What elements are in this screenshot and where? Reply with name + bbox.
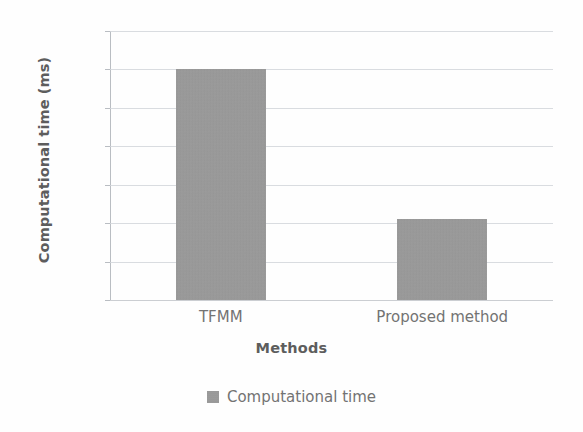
x-category-label: Proposed method	[322, 308, 562, 326]
y-tick-mark	[105, 300, 110, 301]
y-tick-mark	[105, 31, 110, 32]
y-axis-title: Computational time (ms)	[36, 30, 52, 290]
gridline	[110, 31, 553, 32]
plot-area	[110, 31, 553, 300]
y-tick-mark	[105, 69, 110, 70]
bar[interactable]	[397, 219, 487, 300]
x-category-label: TFMM	[101, 308, 341, 326]
legend-label: Computational time	[227, 388, 376, 406]
x-axis-title: Methods	[0, 340, 583, 356]
bar[interactable]	[176, 69, 266, 300]
y-tick-mark	[105, 146, 110, 147]
y-tick-mark	[105, 223, 110, 224]
y-tick-mark	[105, 262, 110, 263]
bar-chart-figure: Computational time (ms) 1919.52020.52121…	[0, 0, 583, 432]
legend-item[interactable]: Computational time	[207, 388, 376, 406]
y-axis-line	[110, 31, 111, 300]
y-tick-mark	[105, 108, 110, 109]
y-tick-mark	[105, 185, 110, 186]
legend-swatch-icon	[207, 391, 219, 403]
gridline	[110, 300, 553, 301]
chart-legend: Computational time	[0, 388, 583, 406]
